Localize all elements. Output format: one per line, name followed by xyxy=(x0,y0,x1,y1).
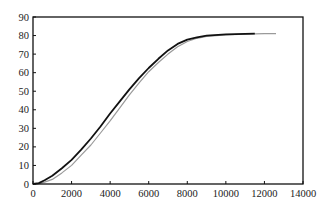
y-tick-label: 50 xyxy=(19,86,30,97)
y-tick-label: 80 xyxy=(19,30,30,41)
plot-curves xyxy=(33,34,276,184)
line-chart: 02000400060008000100001200014000 0102030… xyxy=(0,0,332,208)
y-tick-label: 10 xyxy=(19,160,30,171)
y-tick-label: 60 xyxy=(19,67,30,78)
y-tick-label: 40 xyxy=(19,104,30,115)
x-tick-label: 8000 xyxy=(177,188,198,199)
x-tick-label: 0 xyxy=(30,188,35,199)
series-black-line xyxy=(33,34,255,184)
x-tick-label: 4000 xyxy=(100,188,121,199)
y-tick-label: 20 xyxy=(19,141,30,152)
x-tick-label: 14000 xyxy=(290,188,316,199)
x-tick-label: 12000 xyxy=(251,188,277,199)
y-tick-label: 0 xyxy=(24,179,29,190)
y-tick-label: 90 xyxy=(19,12,30,23)
y-tick-label: 30 xyxy=(19,123,30,134)
x-tick-label: 6000 xyxy=(138,188,159,199)
y-tick-label: 70 xyxy=(19,49,30,60)
x-tick-label: 2000 xyxy=(61,188,82,199)
x-tick-label: 10000 xyxy=(213,188,239,199)
